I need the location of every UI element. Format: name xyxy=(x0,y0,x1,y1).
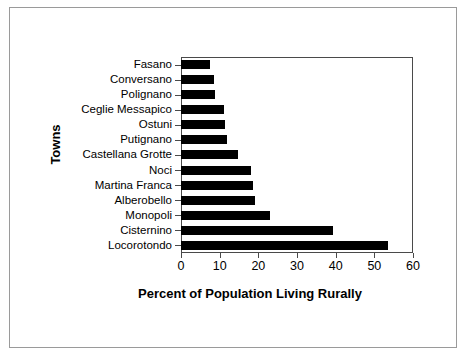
bar-row xyxy=(181,238,413,253)
y-axis-tick xyxy=(175,200,181,201)
bar-row xyxy=(181,57,413,72)
bar xyxy=(181,105,224,114)
y-axis-tick xyxy=(175,155,181,156)
y-axis-tick-label: Putignano xyxy=(120,132,172,147)
bar xyxy=(181,90,215,99)
x-axis-tick-label: 50 xyxy=(354,259,394,273)
x-axis-tick xyxy=(297,253,298,258)
bar xyxy=(181,60,210,69)
y-axis-tick xyxy=(175,215,181,216)
y-axis-tick-label: Castellana Grotte xyxy=(83,147,173,162)
y-axis-tick-label: Locorotondo xyxy=(108,238,172,253)
bar xyxy=(181,196,255,205)
chart-figure: FasanoConversanoPolignanoCeglie Messapic… xyxy=(0,0,468,361)
bar xyxy=(181,181,253,190)
bar-row xyxy=(181,147,413,162)
bar-row xyxy=(181,223,413,238)
y-axis-tick-label: Alberobello xyxy=(114,193,172,208)
bar-row xyxy=(181,132,413,147)
y-axis-tick xyxy=(175,110,181,111)
bar xyxy=(181,226,333,235)
y-axis-tick xyxy=(175,230,181,231)
x-axis-tick xyxy=(374,253,375,258)
x-axis-tick-label: 40 xyxy=(316,259,356,273)
x-axis-tick-label: 60 xyxy=(393,259,433,273)
y-axis-tick xyxy=(175,245,181,246)
x-axis-tick xyxy=(220,253,221,258)
bar-row xyxy=(181,102,413,117)
y-axis-tick-label: Noci xyxy=(149,163,172,178)
y-axis-tick-label: Ceglie Messapico xyxy=(81,102,172,117)
y-axis-title: Towns xyxy=(48,85,63,205)
x-axis-tick xyxy=(413,253,414,258)
x-axis-tick-label: 30 xyxy=(277,259,317,273)
y-axis-categories: FasanoConversanoPolignanoCeglie Messapic… xyxy=(0,57,178,253)
bar-row xyxy=(181,87,413,102)
bar xyxy=(181,120,225,129)
bar-row xyxy=(181,117,413,132)
y-axis-tick-label: Cisternino xyxy=(120,223,172,238)
bar xyxy=(181,135,227,144)
bar-row xyxy=(181,193,413,208)
bar-row xyxy=(181,208,413,223)
y-axis-tick-label: Monopoli xyxy=(125,208,172,223)
bar xyxy=(181,75,214,84)
x-axis-tick xyxy=(336,253,337,258)
bar xyxy=(181,211,270,220)
bar-row xyxy=(181,163,413,178)
y-axis-tick-label: Conversano xyxy=(110,72,172,87)
bar-row xyxy=(181,178,413,193)
y-axis-tick xyxy=(175,125,181,126)
bar-row xyxy=(181,72,413,87)
y-axis-tick-label: Fasano xyxy=(134,57,172,72)
bars-layer xyxy=(181,57,413,253)
y-axis-tick-label: Polignano xyxy=(121,87,172,102)
x-axis-tick xyxy=(258,253,259,258)
y-axis-tick-label: Ostuni xyxy=(139,117,172,132)
bar xyxy=(181,166,251,175)
x-axis-title: Percent of Population Living Rurally xyxy=(60,286,440,301)
y-axis-tick xyxy=(175,185,181,186)
x-axis-tick-label: 0 xyxy=(161,259,201,273)
y-axis-tick xyxy=(175,80,181,81)
x-axis-tick-label: 20 xyxy=(238,259,278,273)
y-axis-tick xyxy=(175,95,181,96)
y-axis-tick xyxy=(175,140,181,141)
y-axis-tick xyxy=(175,170,181,171)
y-axis-tick xyxy=(175,65,181,66)
x-axis-tick xyxy=(181,253,182,258)
bar xyxy=(181,150,238,159)
y-axis-tick-label: Martina Franca xyxy=(95,178,172,193)
x-axis-tick-label: 10 xyxy=(200,259,240,273)
bar xyxy=(181,241,388,250)
